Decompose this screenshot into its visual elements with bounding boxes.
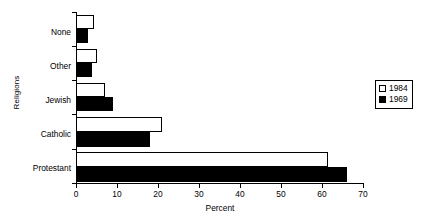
y-tick-label-jewish: Jewish xyxy=(11,95,71,105)
bar-protestant-1969 xyxy=(76,167,347,182)
dark-square-icon xyxy=(379,96,386,103)
x-tick-label-50: 50 xyxy=(269,189,293,199)
bar-jewish-1969 xyxy=(76,97,113,111)
x-tick-mark xyxy=(199,183,200,188)
y-tick-label-protestant: Protestant xyxy=(11,163,71,173)
legend: 1984 1969 xyxy=(375,80,413,109)
y-tick-label-none: None xyxy=(11,27,71,37)
light-square-icon xyxy=(379,85,386,92)
legend-label-1969: 1969 xyxy=(389,95,408,104)
y-axis-tick-labels: None Other Jewish Catholic Protestant xyxy=(8,0,71,224)
bar-group-protestant xyxy=(76,149,363,184)
y-tick-label-other: Other xyxy=(11,61,71,71)
x-tick-label-10: 10 xyxy=(105,189,129,199)
x-tick-mark xyxy=(281,183,282,188)
plot-area xyxy=(76,12,363,184)
bar-none-1969 xyxy=(76,29,88,43)
x-tick-label-20: 20 xyxy=(146,189,170,199)
bar-group-jewish xyxy=(76,80,363,114)
x-tick-mark xyxy=(240,183,241,188)
x-tick-mark xyxy=(158,183,159,188)
x-tick-label-0: 0 xyxy=(64,189,88,199)
bar-group-none xyxy=(76,12,363,46)
bar-group-other xyxy=(76,46,363,80)
bar-other-1969 xyxy=(76,63,92,77)
x-axis-title: Percent xyxy=(76,203,364,213)
bar-protestant-1984 xyxy=(76,152,328,167)
x-tick-mark xyxy=(363,183,364,188)
bar-jewish-1984 xyxy=(76,83,105,97)
x-tick-label-40: 40 xyxy=(228,189,252,199)
x-tick-mark xyxy=(322,183,323,188)
bar-catholic-1969 xyxy=(76,132,150,147)
bar-other-1984 xyxy=(76,49,97,63)
bar-group-catholic xyxy=(76,114,363,149)
x-tick-label-30: 30 xyxy=(187,189,211,199)
bar-none-1984 xyxy=(76,15,94,29)
bar-catholic-1984 xyxy=(76,117,162,132)
x-tick-label-70: 70 xyxy=(351,189,375,199)
x-tick-mark xyxy=(117,183,118,188)
bar-chart: Religions None Other Jewish Catholic Pro… xyxy=(0,0,429,224)
y-tick-label-catholic: Catholic xyxy=(11,129,71,139)
legend-entry-1969: 1969 xyxy=(379,94,408,105)
legend-label-1984: 1984 xyxy=(389,84,408,93)
x-tick-mark xyxy=(76,183,77,188)
legend-entry-1984: 1984 xyxy=(379,83,408,94)
x-tick-label-60: 60 xyxy=(310,189,334,199)
